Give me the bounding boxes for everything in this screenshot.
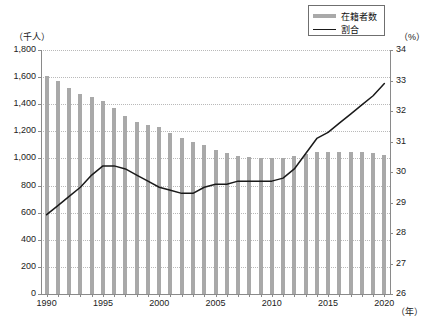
y-axis-left-tickmark xyxy=(38,104,41,105)
y-axis-right-tick-label: 33 xyxy=(396,75,406,85)
line-series-ratio xyxy=(41,50,390,294)
x-axis-tickmark xyxy=(193,294,194,297)
legend-label-ratio: 割合 xyxy=(341,23,359,36)
y-axis-left-tick-label: 200 xyxy=(2,261,36,271)
y-axis-left-tick-label: 1,200 xyxy=(2,125,36,135)
right-axis-unit-label: （%） xyxy=(399,30,425,43)
x-axis-tickmark xyxy=(125,294,126,297)
y-axis-left-tick-label: 600 xyxy=(2,207,36,217)
x-axis-tickmark xyxy=(103,294,104,297)
y-axis-left-tick-label: 0 xyxy=(2,288,36,298)
x-axis-tickmark xyxy=(238,294,239,297)
chart-container: （千人） （%） （年） 02004006008001,0001,2001,40… xyxy=(0,0,431,323)
y-axis-left-tick-label: 800 xyxy=(2,180,36,190)
y-axis-left-tickmark xyxy=(38,213,41,214)
y-axis-left-tickmark xyxy=(38,131,41,132)
y-axis-right-tick-label: 27 xyxy=(396,258,406,268)
y-axis-left-tickmark xyxy=(38,294,41,295)
x-axis-tick-label: 2005 xyxy=(196,298,236,308)
x-axis-tickmark xyxy=(182,294,183,297)
y-axis-right-tick-label: 31 xyxy=(396,136,406,146)
legend-item-ratio: 割合 xyxy=(313,23,380,35)
y-axis-right-tickmark xyxy=(390,81,393,82)
x-axis-tickmark xyxy=(306,294,307,297)
y-axis-right-tick-label: 29 xyxy=(396,197,406,207)
x-axis-tickmark xyxy=(339,294,340,297)
x-axis-tickmark xyxy=(351,294,352,297)
y-axis-left-tickmark xyxy=(38,77,41,78)
x-axis-tickmark xyxy=(317,294,318,297)
y-axis-left-tickmark xyxy=(38,240,41,241)
legend-label-enrollment: 在籍者数 xyxy=(341,10,377,23)
y-axis-right-tickmark xyxy=(390,50,393,51)
x-axis-tick-label: 2015 xyxy=(308,298,348,308)
x-axis-tickmark xyxy=(159,294,160,297)
y-axis-right-tickmark xyxy=(390,233,393,234)
x-axis-tickmark xyxy=(69,294,70,297)
y-axis-left-tickmark xyxy=(38,50,41,51)
x-axis-tickmark xyxy=(170,294,171,297)
y-axis-right-tickmark xyxy=(390,142,393,143)
plot-area xyxy=(41,50,390,294)
x-axis-tickmark xyxy=(216,294,217,297)
y-axis-left-tick-label: 1,600 xyxy=(2,71,36,81)
x-axis-tickmark xyxy=(47,294,48,297)
y-axis-right-tickmark xyxy=(390,203,393,204)
x-axis-tickmark xyxy=(137,294,138,297)
x-axis-tickmark xyxy=(328,294,329,297)
y-axis-right-tick-label: 28 xyxy=(396,227,406,237)
x-axis-tickmark xyxy=(272,294,273,297)
legend-item-enrollment: 在籍者数 xyxy=(313,10,380,22)
y-axis-left-tick-label: 1,800 xyxy=(2,44,36,54)
x-axis-tickmark xyxy=(92,294,93,297)
x-axis-tick-label: 2010 xyxy=(252,298,292,308)
x-axis-tickmark xyxy=(114,294,115,297)
y-axis-right-tick-label: 34 xyxy=(396,44,406,54)
x-axis-tick-label: 2000 xyxy=(139,298,179,308)
y-axis-right-tickmark xyxy=(390,264,393,265)
x-axis-tickmark xyxy=(249,294,250,297)
x-axis-tickmark xyxy=(294,294,295,297)
y-axis-right-tick-label: 32 xyxy=(396,105,406,115)
x-axis-tick-label: 1990 xyxy=(27,298,67,308)
x-axis-tickmark xyxy=(283,294,284,297)
x-axis-tickmark xyxy=(148,294,149,297)
y-axis-left-tick-label: 400 xyxy=(2,234,36,244)
y-axis-right-tick-label: 30 xyxy=(396,166,406,176)
x-axis-tick-label: 1995 xyxy=(83,298,123,308)
x-axis-tickmark xyxy=(261,294,262,297)
x-axis-tickmark xyxy=(384,294,385,297)
legend: 在籍者数 割合 xyxy=(308,5,385,36)
x-axis-tickmark xyxy=(362,294,363,297)
y-axis-left-tickmark xyxy=(38,186,41,187)
y-axis-right-tickmark xyxy=(390,172,393,173)
x-axis-tickmark xyxy=(227,294,228,297)
y-axis-right-tickmark xyxy=(390,111,393,112)
y-axis-left-tick-label: 1,400 xyxy=(2,98,36,108)
y-axis-left-tickmark xyxy=(38,267,41,268)
y-axis-right-tick-label: 26 xyxy=(396,288,406,298)
x-axis-tick-label: 2020 xyxy=(364,298,404,308)
y-axis-left-tickmark xyxy=(38,158,41,159)
x-axis-tickmark xyxy=(58,294,59,297)
bar-swatch-icon xyxy=(313,14,336,18)
line-swatch-icon xyxy=(313,29,336,30)
x-axis-tickmark xyxy=(80,294,81,297)
x-axis-tickmark xyxy=(373,294,374,297)
x-axis-tickmark xyxy=(204,294,205,297)
y-axis-right-tickmark xyxy=(390,294,393,295)
y-axis-left-tick-label: 1,000 xyxy=(2,152,36,162)
y-axis-left xyxy=(41,50,42,295)
left-axis-unit-label: （千人） xyxy=(14,30,50,43)
